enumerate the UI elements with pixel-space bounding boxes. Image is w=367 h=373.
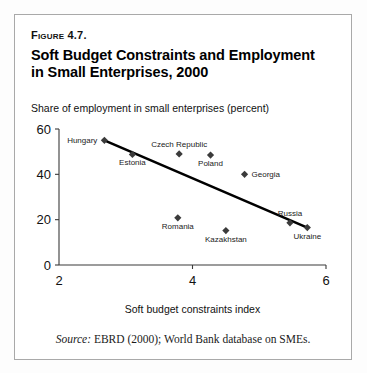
x-tick-label: 4 (189, 273, 196, 288)
diamond-marker (241, 171, 248, 178)
diamond-marker (207, 151, 214, 158)
y-tick-label: 60 (37, 122, 51, 137)
data-point[interactable]: Georgia (241, 170, 281, 179)
data-point[interactable]: Hungary (67, 136, 108, 145)
point-label: Estonia (119, 158, 146, 167)
data-point[interactable]: Czech Republic (151, 140, 207, 158)
data-point[interactable]: Kazakhstan (205, 227, 247, 244)
data-point[interactable]: Ukraine (294, 224, 322, 241)
point-label: Romania (162, 222, 195, 231)
source-label: Source: (56, 333, 91, 345)
y-tick-label: 20 (37, 212, 51, 227)
scatter-plot: 0204060246HungaryEstoniaCzech RepublicPo… (15, 15, 351, 359)
figure-border-box: Figure 4.7. Soft Budget Constraints and … (14, 14, 352, 360)
diamond-marker (101, 137, 108, 144)
y-tick-label: 40 (37, 167, 51, 182)
point-label: Czech Republic (151, 140, 207, 149)
source-text: EBRD (2000); World Bank database on SMEs… (91, 333, 310, 345)
diamond-marker (222, 227, 229, 234)
data-point[interactable]: Estonia (119, 151, 146, 168)
diamond-marker (176, 150, 183, 157)
x-tick-label: 2 (55, 273, 62, 288)
figure-page: Figure 4.7. Soft Budget Constraints and … (0, 0, 367, 373)
point-label: Georgia (252, 170, 281, 179)
diamond-marker (174, 214, 181, 221)
point-label: Hungary (67, 136, 97, 145)
point-label: Poland (198, 159, 223, 168)
point-label: Ukraine (294, 232, 322, 241)
y-tick-label: 0 (44, 258, 51, 273)
point-label: Russia (278, 209, 303, 218)
data-point[interactable]: Romania (162, 214, 195, 231)
x-axis-title: Soft budget constraints index (125, 303, 261, 315)
source-note: Source: EBRD (2000); World Bank database… (15, 333, 351, 345)
diamond-marker (304, 224, 311, 231)
x-tick-label: 6 (322, 273, 329, 288)
data-point[interactable]: Poland (198, 151, 223, 168)
point-label: Kazakhstan (205, 235, 247, 244)
